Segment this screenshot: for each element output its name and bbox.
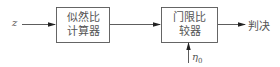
likelihood-ratio-line-2: 计算器 bbox=[67, 25, 100, 39]
threshold-comparator-line-2: 较器 bbox=[179, 25, 201, 39]
input-label: z bbox=[12, 17, 17, 28]
likelihood-ratio-label: 似然比 计算器 bbox=[57, 8, 109, 42]
threshold-comparator-label: 门限比 较器 bbox=[162, 8, 217, 42]
threshold-label: η0 bbox=[192, 51, 202, 65]
output-label: 判决 bbox=[248, 17, 270, 33]
threshold-subscript: 0 bbox=[198, 57, 202, 65]
threshold-comparator-line-1: 门限比 bbox=[173, 11, 206, 25]
likelihood-ratio-line-1: 似然比 bbox=[67, 11, 100, 25]
diagram-canvas bbox=[0, 0, 280, 67]
